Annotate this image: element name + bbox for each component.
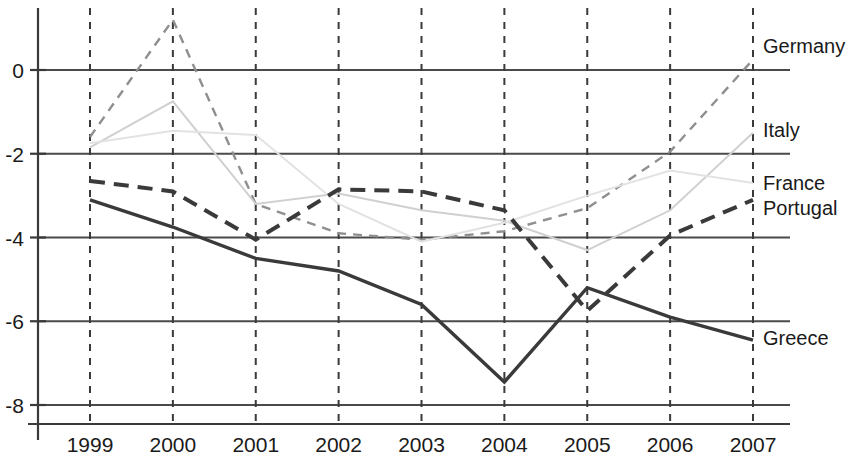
chart-legend: GermanyItalyFrancePortugalGreece	[763, 35, 845, 349]
x-axis-tick-labels: 199920002001200220032004200520062007	[67, 433, 777, 456]
x-axis-tick-label: 2000	[150, 433, 197, 456]
legend-label-france: France	[763, 172, 825, 194]
x-axis-tick-label: 2002	[315, 433, 362, 456]
x-axis-tick-label: 2003	[398, 433, 445, 456]
legend-label-italy: Italy	[763, 119, 800, 141]
line-chart: 0-2-4-6-8 199920002001200220032004200520…	[0, 0, 854, 460]
series-line-france	[90, 131, 753, 242]
y-axis-tick-label: -4	[5, 227, 24, 250]
y-axis-tick-label: -8	[5, 394, 24, 417]
x-axis-tick-label: 2004	[481, 433, 528, 456]
x-axis-tick-label: 2006	[647, 433, 694, 456]
y-axis-tick-label: -2	[5, 143, 24, 166]
legend-label-germany: Germany	[763, 35, 845, 57]
legend-label-portugal: Portugal	[763, 197, 838, 219]
y-axis-tick-label: 0	[12, 59, 24, 82]
x-axis-tick-label: 1999	[67, 433, 114, 456]
x-axis-tick-label: 2007	[730, 433, 777, 456]
x-axis-tick-label: 2005	[564, 433, 611, 456]
series-lines	[90, 20, 753, 382]
y-axis-tick-labels: 0-2-4-6-8	[5, 59, 24, 417]
chart-container: 0-2-4-6-8 199920002001200220032004200520…	[0, 0, 854, 460]
y-axis-tick-label: -6	[5, 310, 24, 333]
x-axis-tick-label: 2001	[232, 433, 279, 456]
legend-label-greece: Greece	[763, 327, 829, 349]
